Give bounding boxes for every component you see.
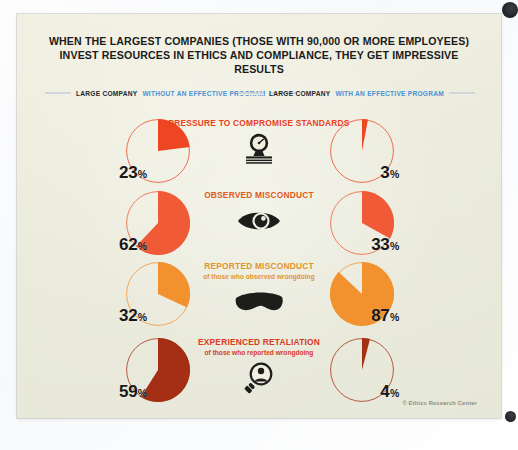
infographic-poster: WHEN THE LARGEST COMPANIES (THOSE WITH 9… bbox=[17, 14, 501, 418]
legend-item-with-program: LARGE COMPANY WITH AN EFFECTIVE PROGRAM bbox=[238, 90, 475, 97]
pie-right-percent: 4% bbox=[380, 383, 399, 402]
pie-left-percent: 62% bbox=[119, 236, 147, 255]
screenshot-canvas: WHEN THE LARGEST COMPANIES (THOSE WITH 9… bbox=[0, 0, 518, 450]
scan-artifact-top-right bbox=[502, 2, 518, 18]
legend-right-prefix: LARGE COMPANY bbox=[269, 90, 330, 97]
page-title: WHEN THE LARGEST COMPANIES (THOSE WITH 9… bbox=[41, 34, 477, 76]
scan-artifact-bottom-right bbox=[505, 411, 516, 422]
pie-chart-right: 33% bbox=[315, 189, 407, 257]
pie-left-percent: 23% bbox=[119, 164, 147, 183]
pie-right-percent: 33% bbox=[371, 236, 399, 255]
credit-line: © Ethics Research Center bbox=[402, 400, 477, 406]
legend-rule-right-end bbox=[449, 92, 475, 95]
stat-row: 32% REPORTED MISCONDUCT of those who obs… bbox=[17, 257, 501, 333]
pie-right-percent: 3% bbox=[380, 164, 399, 183]
legend-left-prefix: LARGE COMPANY bbox=[76, 90, 137, 97]
pie-chart-right: 3% bbox=[315, 117, 407, 185]
legend: LARGE COMPANY WITHOUT AN EFFECTIVE PROGR… bbox=[37, 90, 481, 108]
pie-chart-right: 4% bbox=[315, 336, 407, 404]
stat-row: 23% PRESSURE TO COMPROMISE STANDARDS bbox=[17, 114, 501, 186]
legend-rule-right bbox=[238, 92, 264, 95]
legend-right-highlight: WITH AN EFFECTIVE PROGRAM bbox=[335, 90, 444, 97]
pie-chart-right: 87% bbox=[315, 260, 407, 328]
stat-row: 62% OBSERVED MISCONDUCT bbox=[17, 186, 501, 257]
legend-rule-left bbox=[45, 92, 71, 95]
pie-right-percent: 87% bbox=[371, 307, 399, 326]
